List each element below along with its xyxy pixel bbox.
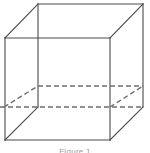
cube-wireframe-diagram [0, 0, 150, 153]
figure-caption: Figure 1 [0, 147, 150, 153]
diagram-background [0, 0, 150, 153]
figure-container: Figure 1 [0, 0, 150, 153]
